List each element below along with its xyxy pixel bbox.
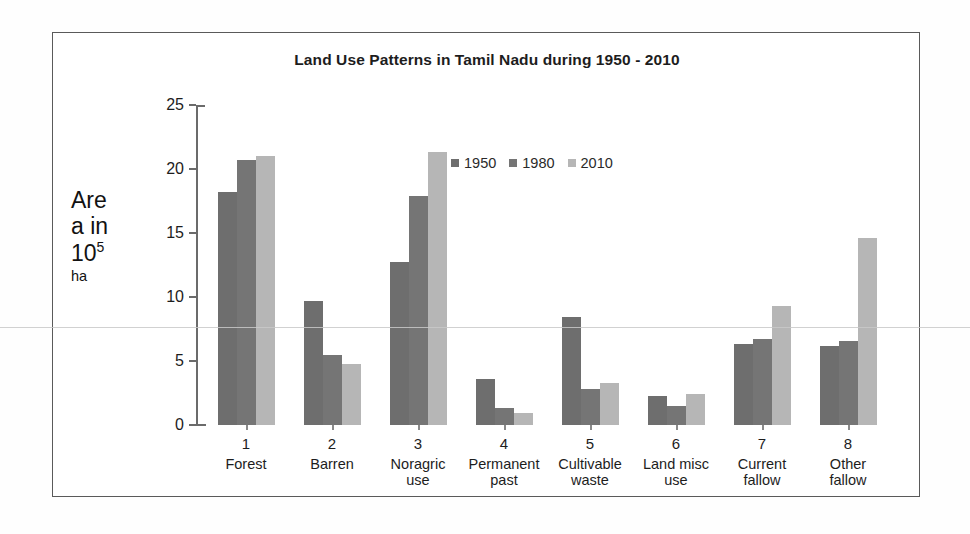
x-axis-tick-7 [762,425,764,430]
bar-1980-noragric-use[interactable] [409,196,428,425]
legend-item-1950[interactable]: 1950 [451,155,496,171]
y-axis-top-cap [196,105,205,107]
y-axis-tick-label: 5 [175,352,184,370]
x-axis-label-number: 1 [203,435,289,452]
x-axis-label-other-fallow: 8Otherfallow [805,435,891,488]
x-axis-label-number: 7 [719,435,805,452]
x-axis-tick-5 [590,425,592,430]
x-axis-tick-3 [418,425,420,430]
x-axis-line [196,424,206,426]
bar-1950-other-fallow[interactable] [820,346,839,425]
x-axis-label-text: use [633,472,719,488]
x-axis-label-text: Barren [289,456,375,472]
bar-1980-forest[interactable] [237,160,256,425]
bar-1980-current-fallow[interactable] [753,339,772,425]
y-axis-tick-mark [189,232,196,234]
bar-2010-permanent-past[interactable] [514,413,533,425]
x-axis-label-text: Other [805,456,891,472]
x-axis-label-text: use [375,472,461,488]
bar-1980-permanent-past[interactable] [495,408,514,425]
legend-item-2010[interactable]: 2010 [568,155,613,171]
y-axis-title-unit: ha [71,268,163,284]
x-axis-label-forest: 1Forest [203,435,289,472]
bar-2010-noragric-use[interactable] [428,152,447,425]
bar-2010-cultivable-waste[interactable] [600,383,619,425]
y-axis-tick-mark [189,104,196,106]
bar-1980-other-fallow[interactable] [839,341,858,425]
y-axis-tick-mark [189,424,196,426]
bar-group-5 [562,105,619,425]
bar-1950-barren[interactable] [304,301,323,425]
bar-1950-land-misc-use[interactable] [648,396,667,425]
x-axis-tick-2 [332,425,334,430]
y-axis-tick-mark [189,360,196,362]
legend-item-1980[interactable]: 1980 [509,155,554,171]
x-axis-label-number: 3 [375,435,461,452]
bar-1950-cultivable-waste[interactable] [562,317,581,425]
y-axis-tick-label: 15 [166,224,184,242]
x-axis-label-text: Cultivable [547,456,633,472]
x-axis-label-text: fallow [805,472,891,488]
bar-2010-forest[interactable] [256,156,275,425]
bar-1980-cultivable-waste[interactable] [581,389,600,425]
legend-label-1980: 1980 [522,155,554,171]
y-axis-line [196,105,198,425]
page-canvas: Land Use Patterns in Tamil Nadu during 1… [0,0,970,534]
x-axis-label-current-fallow: 7Currentfallow [719,435,805,488]
bar-2010-land-misc-use[interactable] [686,394,705,425]
y-axis-tick-label: 10 [166,288,184,306]
chart-title: Land Use Patterns in Tamil Nadu during 1… [53,51,921,69]
bar-group-2 [304,105,361,425]
bar-1950-permanent-past[interactable] [476,379,495,425]
x-axis-label-text: Forest [203,456,289,472]
plot-area: 0510152025 1Forest2Barren3Noragricuse4Pe… [196,105,902,425]
x-axis-tick-4 [504,425,506,430]
y-axis-title-base: 10 [71,239,97,265]
x-axis-label-number: 2 [289,435,375,452]
x-axis-label-barren: 2Barren [289,435,375,472]
x-axis-label-text: Permanent [461,456,547,472]
bar-group-4 [476,105,533,425]
x-axis-label-text: Land misc [633,456,719,472]
legend-swatch-icon-1980 [509,159,517,167]
y-axis-tick-mark [189,168,196,170]
bar-1950-noragric-use[interactable] [390,262,409,425]
x-axis-tick-6 [676,425,678,430]
x-axis-label-text: Noragric [375,456,461,472]
y-axis-title-line-3: 105 [71,240,163,266]
y-axis-tick-label: 20 [166,160,184,178]
x-axis-label-text: fallow [719,472,805,488]
y-axis-tick-mark [189,296,196,298]
x-axis-tick-1 [246,425,248,430]
x-axis-label-number: 5 [547,435,633,452]
x-axis-label-number: 4 [461,435,547,452]
x-axis-label-cultivable-waste: 5Cultivablewaste [547,435,633,488]
bar-group-8 [820,105,877,425]
bar-2010-other-fallow[interactable] [858,238,877,425]
bar-group-1 [218,105,275,425]
x-axis-label-number: 6 [633,435,719,452]
legend-swatch-icon-1950 [451,159,459,167]
x-axis-label-land-misc-use: 6Land miscuse [633,435,719,488]
x-axis-label-text: past [461,472,547,488]
x-axis-label-permanent-past: 4Permanentpast [461,435,547,488]
x-axis-label-text: waste [547,472,633,488]
bar-1950-forest[interactable] [218,192,237,425]
legend-swatch-icon-2010 [568,159,576,167]
legend-label-1950: 1950 [464,155,496,171]
bar-2010-barren[interactable] [342,364,361,425]
bar-1950-current-fallow[interactable] [734,344,753,425]
x-axis-label-number: 8 [805,435,891,452]
y-axis-title-exponent: 5 [97,239,105,255]
x-axis-tick-8 [848,425,850,430]
bar-1980-land-misc-use[interactable] [667,406,686,425]
bar-2010-current-fallow[interactable] [772,306,791,425]
figure-frame: Land Use Patterns in Tamil Nadu during 1… [52,32,920,497]
bar-1980-barren[interactable] [323,355,342,425]
bar-group-3 [390,105,447,425]
y-axis-title-line-1: Are [71,188,163,214]
y-axis-title: Are a in 105 ha [71,188,163,284]
x-axis-label-noragric-use: 3Noragricuse [375,435,461,488]
y-axis-title-line-2: a in [71,214,163,240]
y-axis-tick-label: 0 [175,416,184,434]
